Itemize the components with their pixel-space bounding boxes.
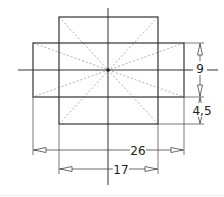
arrow-down-icon — [198, 85, 203, 96]
arrow-left-icon — [60, 167, 72, 172]
dim-height-upper: 9 — [196, 62, 204, 76]
arrow-up-icon — [198, 44, 203, 55]
center-point — [106, 68, 110, 72]
dim-height-lower: 4,5 — [192, 104, 211, 118]
arrow-left-icon — [34, 148, 46, 153]
technical-drawing: 9 4,5 26 17 — [0, 0, 224, 197]
dim-width-inner: 17 — [113, 163, 128, 177]
dim-width-outer: 26 — [130, 144, 145, 158]
bottom-divider — [0, 195, 224, 196]
arrow-right-icon — [171, 148, 183, 153]
arrow-right-icon — [145, 167, 157, 172]
